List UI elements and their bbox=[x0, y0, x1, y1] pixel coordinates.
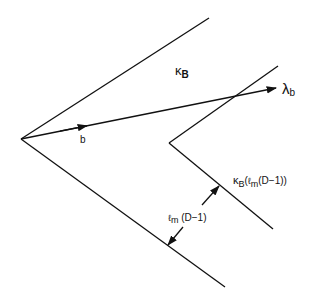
label-distance: ℓm (D−1) bbox=[168, 212, 206, 225]
vector-b-arrow-icon bbox=[60, 126, 87, 131]
outer-cone bbox=[21, 18, 225, 287]
label-kappa-b: κB bbox=[175, 63, 189, 80]
label-lambda-b: λb bbox=[282, 80, 296, 98]
distance-arg: (D−1) bbox=[178, 212, 206, 223]
distance-arrow-up-icon bbox=[202, 186, 219, 205]
label-kappa-shifted: κB(ℓm(D−1)) bbox=[233, 174, 287, 189]
label-b: b bbox=[80, 134, 86, 145]
distance-ell-subscript: m bbox=[171, 215, 179, 225]
cone-diagram: κB λb b κB(ℓm(D−1)) ℓm (D−1) bbox=[0, 0, 316, 301]
kappa-subscript: B bbox=[182, 69, 189, 80]
lambda-subscript: b bbox=[290, 87, 296, 98]
kappa-shifted-arg: (D−1)) bbox=[258, 175, 287, 186]
ray-line bbox=[21, 88, 276, 139]
ray-lambda-b bbox=[21, 88, 276, 139]
kappa-shifted-ell-subscript: m bbox=[251, 179, 259, 189]
distance-arrow-down-icon bbox=[168, 227, 183, 245]
